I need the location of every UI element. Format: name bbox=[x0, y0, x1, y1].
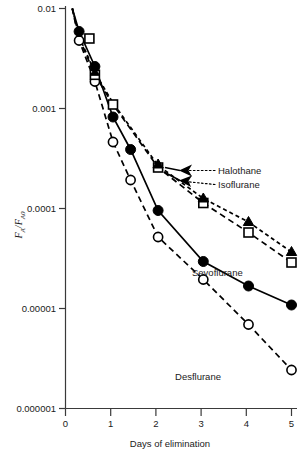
data-point-desflurane bbox=[244, 320, 253, 329]
desflurane-markers bbox=[75, 36, 297, 375]
halothane-arrow-stem bbox=[165, 168, 180, 171]
sevoflurane-line bbox=[72, 9, 291, 306]
data-point-sevoflurane bbox=[287, 300, 297, 310]
x-tick-label-5: 5 bbox=[289, 418, 294, 429]
x-tick-marks bbox=[66, 409, 292, 417]
chart-figure: 0.01 0.001 0.0001 0.00001 0.000001 0 1 2… bbox=[0, 0, 307, 455]
y-axis-title-sub2: A0 bbox=[19, 211, 27, 220]
data-point-desflurane bbox=[287, 365, 296, 374]
data-point-sevoflurane bbox=[126, 145, 136, 155]
y-tick-label-2: 0.0001 bbox=[27, 203, 56, 214]
annotations-group: Halothane Isoflurane Sevoflurane Desflur… bbox=[164, 165, 261, 383]
data-point-sevoflurane bbox=[90, 62, 100, 72]
data-point-halothane bbox=[286, 247, 296, 256]
x-tick-label-0: 0 bbox=[63, 418, 68, 429]
annotation-sevoflurane: Sevoflurane bbox=[192, 267, 243, 278]
data-point-sevoflurane bbox=[74, 27, 84, 37]
annotation-desflurane: Desflurane bbox=[175, 371, 221, 382]
data-point-desflurane bbox=[154, 232, 163, 241]
data-point-halothane bbox=[198, 193, 208, 202]
data-point-desflurane bbox=[108, 137, 117, 146]
y-axis-title: FA/FA0 bbox=[13, 211, 27, 240]
x-tick-label-4: 4 bbox=[244, 418, 249, 429]
y-tick-label-0: 0.01 bbox=[38, 3, 57, 14]
annotation-halothane: Halothane bbox=[218, 165, 261, 176]
data-point-isoflurane bbox=[85, 34, 94, 43]
isoflurane-line bbox=[72, 9, 291, 263]
annotation-isoflurane: Isoflurane bbox=[218, 179, 260, 190]
data-point-sevoflurane bbox=[108, 112, 118, 122]
data-point-sevoflurane bbox=[244, 281, 254, 291]
y-tick-label-1: 0.001 bbox=[32, 103, 56, 114]
data-point-isoflurane bbox=[244, 228, 253, 237]
y-tick-label-3: 0.00001 bbox=[22, 303, 56, 314]
x-tick-label-2: 2 bbox=[153, 418, 158, 429]
svg-text:FA/FA0: FA/FA0 bbox=[13, 211, 27, 240]
chart-svg: 0.01 0.001 0.0001 0.00001 0.000001 0 1 2… bbox=[0, 0, 307, 455]
data-point-desflurane bbox=[75, 36, 84, 45]
x-tick-label-3: 3 bbox=[198, 418, 203, 429]
data-point-sevoflurane bbox=[198, 257, 208, 267]
x-tick-label-1: 1 bbox=[108, 418, 113, 429]
data-point-desflurane bbox=[126, 175, 135, 184]
isoflurane-markers bbox=[85, 34, 296, 267]
data-point-sevoflurane bbox=[153, 206, 163, 216]
data-point-isoflurane bbox=[109, 100, 118, 109]
halothane-line bbox=[72, 9, 291, 253]
data-point-isoflurane bbox=[287, 258, 296, 267]
x-axis-title: Days of elimination bbox=[130, 438, 210, 449]
y-tick-label-4: 0.000001 bbox=[16, 403, 56, 414]
y-tick-marks bbox=[59, 9, 66, 409]
